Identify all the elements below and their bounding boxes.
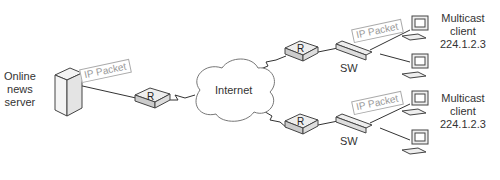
multicast-network-diagram: R R R Online news server Internet SW SW … bbox=[0, 0, 500, 180]
switch-label: SW bbox=[340, 62, 358, 75]
multicast-client-label: Multicast client 224.1.2.3 bbox=[440, 12, 486, 51]
client-label-line: client bbox=[440, 25, 486, 38]
client-computer-icon bbox=[402, 16, 428, 40]
client-label-line: 224.1.2.3 bbox=[440, 38, 486, 51]
switch-label: SW bbox=[340, 135, 358, 148]
server-icon bbox=[55, 68, 82, 116]
client-label-line: Multicast bbox=[440, 92, 486, 105]
client-computer-icon bbox=[402, 130, 428, 154]
multicast-client-label: Multicast client 224.1.2.3 bbox=[440, 92, 486, 131]
internet-label: Internet bbox=[215, 84, 252, 97]
client-computer-icon bbox=[402, 91, 428, 115]
server-label: Online news server bbox=[4, 70, 36, 109]
server-label-line: server bbox=[4, 96, 36, 109]
client-label-line: Multicast bbox=[440, 12, 486, 25]
switch-icon bbox=[336, 114, 372, 133]
server-label-line: Online bbox=[4, 70, 36, 83]
router-label: R bbox=[297, 116, 304, 127]
client-label-line: 224.1.2.3 bbox=[440, 118, 486, 131]
router-label: R bbox=[147, 91, 154, 102]
switch-icon bbox=[336, 41, 372, 60]
router-label: R bbox=[297, 43, 304, 54]
client-label-line: client bbox=[440, 105, 486, 118]
client-computer-icon bbox=[402, 54, 428, 78]
server-label-line: news bbox=[4, 83, 36, 96]
